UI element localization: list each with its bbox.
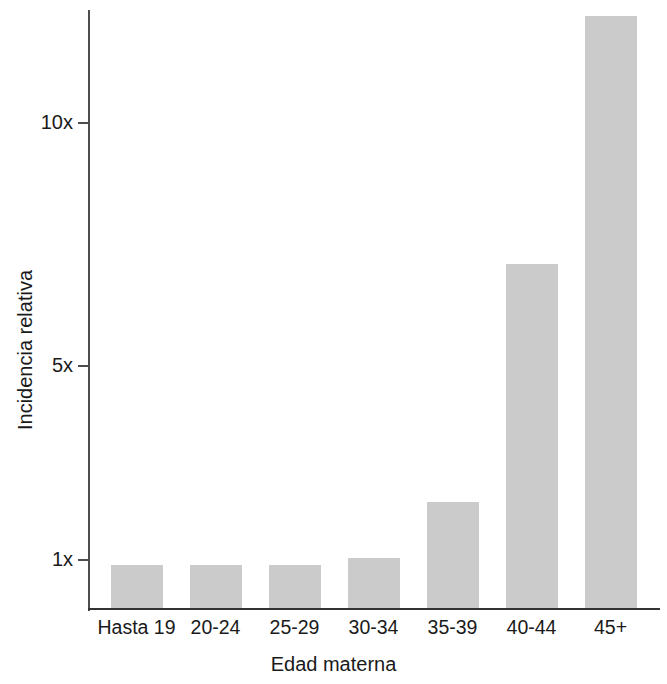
y-tick-mark: [78, 559, 89, 561]
y-axis-line: [88, 10, 90, 611]
bar-chart: Incidencia relativa 10x5x1x Hasta 1920-2…: [0, 0, 667, 684]
bar-30-34: [348, 558, 400, 609]
bar-40-44: [506, 264, 558, 609]
y-tick-label: 10x: [1, 112, 73, 132]
bar-25-29: [269, 565, 321, 609]
x-axis-line: [88, 608, 660, 610]
x-axis-title: Edad materna: [0, 652, 667, 676]
y-tick-label: 5x: [1, 355, 73, 375]
y-tick-1x: 1x: [0, 559, 89, 561]
bar-20-24: [190, 565, 242, 609]
bar-35-39: [427, 502, 479, 609]
y-tick-10x: 10x: [0, 122, 89, 124]
y-tick-5x: 5x: [0, 365, 89, 367]
y-tick-mark: [78, 365, 89, 367]
x-tick-label-45: 45+: [553, 616, 667, 638]
y-tick-label: 1x: [1, 549, 73, 569]
bar-45: [585, 16, 637, 609]
bar-hasta-19: [111, 565, 163, 609]
y-tick-mark: [78, 122, 89, 124]
y-axis-title: Incidencia relativa: [13, 210, 37, 490]
